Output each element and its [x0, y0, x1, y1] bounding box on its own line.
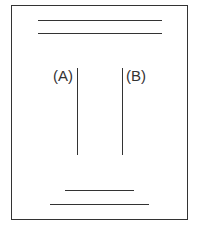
label-b: (B) — [126, 68, 146, 84]
vertical-line-a — [77, 68, 78, 155]
bottom-horizontal-line-2 — [50, 204, 149, 205]
label-a: (A) — [53, 68, 73, 84]
bottom-horizontal-line-1 — [65, 190, 134, 191]
vertical-line-b — [122, 68, 123, 155]
top-horizontal-line-2 — [38, 33, 162, 34]
outer-frame — [11, 5, 188, 220]
top-horizontal-line-1 — [38, 20, 162, 21]
